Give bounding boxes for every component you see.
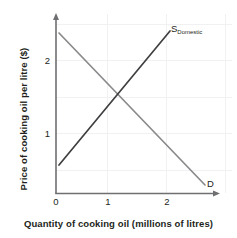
x-tick-label-2: 2: [157, 196, 177, 207]
x-axis-arrowhead: [213, 191, 220, 197]
supply-demand-chart-figure: 0 1 2 1 2 SDomestic D Quantity of cookin…: [0, 0, 237, 238]
supply-curve-label: SDomestic: [171, 23, 202, 34]
x-tick-label-0: 0: [46, 196, 66, 207]
y-axis-arrowhead: [53, 13, 59, 20]
supply-curve-label-subscript: Domestic: [177, 29, 202, 35]
gridlines: [56, 14, 232, 193]
x-tick-label-1: 1: [98, 196, 118, 207]
demand-curve: [59, 33, 205, 185]
y-axis-title: Price of cooking oil per litre ($): [18, 0, 36, 238]
demand-curve-label: D: [207, 178, 214, 189]
